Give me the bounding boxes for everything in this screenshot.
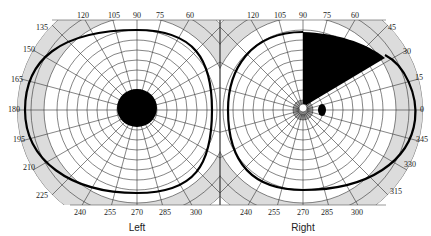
- angle-label: 165: [11, 75, 23, 84]
- angle-label: 180: [8, 105, 20, 114]
- left-caption: Left: [129, 222, 146, 233]
- angle-label: 120: [77, 11, 89, 20]
- angle-label: 105: [274, 11, 286, 20]
- angle-label: 285: [159, 208, 171, 217]
- angle-label: 60: [186, 11, 194, 20]
- angle-label: 240: [240, 208, 252, 217]
- angle-label: 285: [321, 208, 333, 217]
- visual-field-diagram: 1201059075601351501651801952102252402552…: [0, 0, 431, 236]
- angle-label: 210: [23, 163, 35, 172]
- angle-label: 315: [390, 187, 402, 196]
- angle-label: 300: [190, 208, 202, 217]
- angle-label: 0: [420, 105, 424, 114]
- angle-label: 15: [415, 73, 423, 82]
- angle-label: 255: [104, 208, 116, 217]
- angle-label: 225: [36, 191, 48, 200]
- angle-label: 240: [74, 208, 86, 217]
- angle-label: 120: [247, 11, 259, 20]
- angle-label: 270: [131, 208, 143, 217]
- angle-label: 105: [108, 11, 120, 20]
- angle-label: 300: [351, 208, 363, 217]
- right-caption: Right: [291, 222, 315, 233]
- angle-label: 45: [388, 23, 396, 32]
- angle-label: 255: [268, 208, 280, 217]
- angle-label: 270: [297, 208, 309, 217]
- angle-label: 330: [404, 160, 416, 169]
- angle-label: 195: [13, 135, 25, 144]
- angle-label: 30: [403, 47, 411, 56]
- right-blind-spot: [318, 104, 326, 116]
- angle-label: 75: [323, 11, 331, 20]
- angle-label: 90: [299, 11, 307, 20]
- angle-label: 90: [133, 11, 141, 20]
- angle-label: 60: [351, 11, 359, 20]
- angle-label: 150: [23, 45, 35, 54]
- angle-label: 75: [156, 11, 164, 20]
- angle-label: 135: [36, 23, 48, 32]
- angle-label: 345: [416, 135, 428, 144]
- left-central-scotoma: [117, 89, 157, 127]
